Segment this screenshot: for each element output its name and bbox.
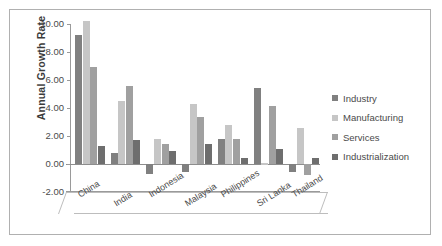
- chart-bar: [90, 67, 97, 164]
- chart-bar: [276, 149, 283, 164]
- legend-item[interactable]: Industrialization: [332, 151, 442, 163]
- x-axis-category-label: India: [112, 190, 134, 209]
- chart-bar: [75, 35, 82, 164]
- legend-item-label: Services: [343, 132, 379, 143]
- y-axis-line: [70, 24, 71, 192]
- y-axis-tick-label: 2.00: [18, 130, 64, 141]
- y-axis-tick-mark: [67, 52, 70, 53]
- chart-bar: [205, 144, 212, 164]
- chart-bar: [162, 144, 169, 164]
- legend-item-label: Industry: [343, 93, 377, 104]
- chart-bar: [190, 104, 197, 164]
- zero-baseline: [66, 164, 320, 165]
- chart-bar: [83, 21, 90, 164]
- chart-legend: IndustryManufacturingServicesIndustriali…: [332, 92, 442, 170]
- chart-bar: [154, 139, 161, 164]
- y-axis-tick-label: -2.00: [18, 186, 64, 197]
- y-axis-tick-label: 8.00: [18, 46, 64, 57]
- chart-bar: [241, 158, 248, 164]
- legend-item-label: Industrialization: [343, 151, 409, 162]
- chart-bar: [182, 164, 189, 172]
- chart-bar: [297, 128, 304, 164]
- y-axis-tick-labels: 10.008.006.004.002.000.00-2.00: [16, 24, 64, 192]
- chart-bar: [233, 139, 240, 164]
- plot-area: [70, 24, 320, 192]
- chart-bar: [146, 164, 153, 174]
- chart-bar: [269, 106, 276, 164]
- chart-bar: [218, 139, 225, 164]
- legend-item-label: Manufacturing: [343, 112, 403, 123]
- legend-item[interactable]: Manufacturing: [332, 112, 442, 124]
- legend-item[interactable]: Services: [332, 131, 442, 143]
- y-axis-tick-mark: [67, 80, 70, 81]
- chart-bar: [111, 153, 118, 164]
- chart-bar: [261, 163, 268, 165]
- chart-bar: [197, 117, 204, 164]
- legend-item[interactable]: Industry: [332, 92, 442, 104]
- chart-bar: [254, 88, 261, 164]
- y-axis-tick-mark: [67, 24, 70, 25]
- chart-container: Annual Growth Rate 10.008.006.004.002.00…: [9, 9, 431, 235]
- chart-bar: [312, 158, 319, 164]
- legend-color-swatch-icon: [332, 95, 338, 101]
- chart-bar: [118, 101, 125, 164]
- legend-color-swatch-icon: [332, 115, 338, 121]
- chart-bar: [126, 86, 133, 164]
- chart-bar: [169, 151, 176, 164]
- y-axis-tick-mark: [67, 136, 70, 137]
- x-axis-category-labels: ChinaIndiaIndonesiaMalaysiaPhilippinesSr…: [70, 188, 330, 246]
- legend-color-swatch-icon: [332, 154, 338, 160]
- y-axis-tick-label: 4.00: [18, 102, 64, 113]
- chart-bar: [289, 164, 296, 172]
- legend-color-swatch-icon: [332, 134, 338, 140]
- chart-bar: [225, 125, 232, 164]
- y-axis-tick-mark: [67, 164, 70, 165]
- y-axis-tick-label: 0.00: [18, 158, 64, 169]
- y-axis-tick-label: 10.00: [18, 18, 64, 29]
- y-axis-tick-mark: [67, 108, 70, 109]
- y-axis-tick-label: 6.00: [18, 74, 64, 85]
- chart-bar: [98, 146, 105, 164]
- chart-bar: [304, 164, 311, 175]
- chart-bar: [133, 140, 140, 164]
